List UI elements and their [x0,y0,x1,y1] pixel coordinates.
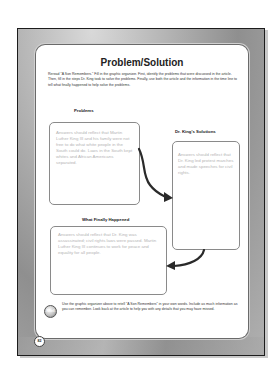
page-number: 82 [34,336,45,347]
outcome-box[interactable]: Answers should reflect that Dr. King was… [50,226,167,295]
footer-instructions: Use the graphic organizer above to retel… [62,302,240,312]
page-title: Problem/Solution [36,57,248,68]
outcome-label: What Finally Happened [82,217,129,222]
instructions-text: Reread "A Son Remembers." Fill in the gr… [48,72,240,88]
solutions-answer: Answers should reflect that Dr. King led… [178,152,236,176]
solutions-box[interactable]: Answers should reflect that Dr. King led… [172,141,240,250]
problems-label: Problems [74,108,94,113]
problems-box[interactable]: Answers should reflect that Martin Luthe… [49,122,140,205]
arrow-problems-to-solutions-icon [136,145,176,205]
arrow-solutions-to-outcome-icon [164,249,209,271]
problems-answer: Answers should reflect that Martin Luthe… [56,130,134,165]
solutions-label: Dr. King's Solutions [175,129,216,134]
worksheet-card: Problem/Solution Reread "A Son Remembers… [36,45,248,338]
outcome-answer: Answers should reflect that Dr. King was… [58,232,158,256]
retell-icon: Retell [44,305,57,318]
